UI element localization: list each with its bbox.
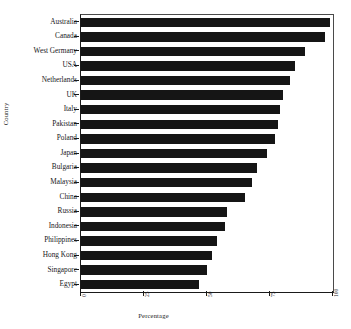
- bar: [81, 178, 252, 187]
- bar-row: [81, 265, 333, 274]
- bar-row: [81, 105, 333, 114]
- x-tick-label: 50: [208, 291, 214, 297]
- x-tick-label: 75: [271, 291, 277, 297]
- y-tick-mark: [74, 211, 79, 212]
- y-tick-mark: [74, 138, 79, 139]
- bar: [81, 47, 305, 56]
- y-axis-title: Country: [2, 84, 9, 144]
- bar: [81, 193, 245, 202]
- bar-row: [81, 149, 333, 158]
- plot-area: [80, 14, 334, 293]
- y-tick-mark: [74, 284, 79, 285]
- bar-row: [81, 236, 333, 245]
- bar: [81, 222, 225, 231]
- x-axis-title-text: Percentage: [138, 312, 168, 319]
- bar-row: [81, 120, 333, 129]
- y-tick-mark: [74, 109, 79, 110]
- bar: [81, 163, 257, 172]
- x-axis-title: Percentage: [0, 312, 351, 319]
- y-tick-mark: [74, 153, 79, 154]
- x-tick-label: 25: [145, 291, 151, 297]
- y-tick-mark: [74, 225, 79, 226]
- bars-container: [81, 15, 333, 292]
- y-tick-label: Hong Kong: [43, 251, 77, 258]
- bar-row: [81, 251, 333, 260]
- x-tick-label: 100: [334, 289, 340, 297]
- y-tick-label: Netherlands: [42, 76, 77, 83]
- bar: [81, 61, 295, 70]
- bar-row: [81, 90, 333, 99]
- y-tick-label: Malaysia: [50, 178, 77, 185]
- y-tick-mark: [74, 94, 79, 95]
- bar-row: [81, 76, 333, 85]
- bar-row: [81, 193, 333, 202]
- bar-row: [81, 178, 333, 187]
- bar: [81, 105, 280, 114]
- bar-row: [81, 280, 333, 289]
- bar-row: [81, 207, 333, 216]
- bar: [81, 90, 283, 99]
- bar-row: [81, 61, 333, 70]
- y-tick-label: West Germany: [34, 47, 77, 54]
- bar: [81, 251, 212, 260]
- y-tick-mark: [74, 65, 79, 66]
- bar-row: [81, 47, 333, 56]
- bar-row: [81, 222, 333, 231]
- y-tick-mark: [74, 80, 79, 81]
- bar-chart-figure: Country AustraliaCanadaWest GermanyUSANe…: [0, 0, 351, 329]
- y-tick-mark: [74, 255, 79, 256]
- y-tick-label: Australia: [50, 18, 77, 25]
- bar: [81, 265, 207, 274]
- y-tick-mark: [74, 182, 79, 183]
- y-tick-mark: [74, 240, 79, 241]
- bar: [81, 134, 275, 143]
- bar-row: [81, 18, 333, 27]
- bar: [81, 18, 330, 27]
- bar-row: [81, 32, 333, 41]
- x-tick-label: 0: [82, 294, 88, 297]
- y-tick-mark: [74, 196, 79, 197]
- y-tick-label: Indonesia: [49, 222, 77, 229]
- bar: [81, 32, 325, 41]
- bar: [81, 120, 278, 129]
- bar: [81, 149, 267, 158]
- bar: [81, 280, 199, 289]
- y-tick-mark: [74, 123, 79, 124]
- bar: [81, 207, 227, 216]
- y-tick-mark: [74, 21, 79, 22]
- y-tick-label: Philippines: [44, 236, 77, 243]
- bar-row: [81, 134, 333, 143]
- y-tick-mark: [74, 50, 79, 51]
- y-tick-mark: [74, 36, 79, 37]
- y-tick-mark: [74, 167, 79, 168]
- bar: [81, 236, 217, 245]
- y-tick-label: Singapore: [47, 266, 77, 273]
- y-tick-mark: [74, 269, 79, 270]
- bar-row: [81, 163, 333, 172]
- bar: [81, 76, 290, 85]
